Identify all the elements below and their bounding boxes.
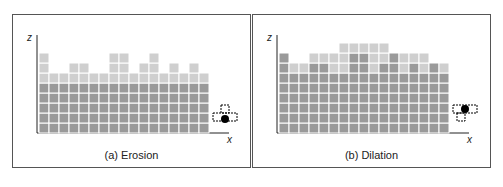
grid-cell xyxy=(49,83,59,93)
grid-cell xyxy=(349,63,359,73)
grid-cell xyxy=(329,123,339,133)
grid-cell xyxy=(339,123,349,133)
grid-cell xyxy=(149,113,159,123)
grid-cell xyxy=(109,63,119,73)
grid-cell xyxy=(149,53,159,63)
grid-cell xyxy=(439,63,449,73)
grid-cell xyxy=(349,93,359,103)
grid-cell xyxy=(379,83,389,93)
erosion-caption: (a) Erosion xyxy=(13,149,250,161)
grid-cell xyxy=(299,73,309,83)
grid-cell xyxy=(139,83,149,93)
grid-cell xyxy=(179,103,189,113)
grid-cell xyxy=(359,73,369,83)
grid-cell xyxy=(199,103,209,113)
grid-cell xyxy=(89,73,99,83)
grid-cell xyxy=(289,63,299,73)
grid-cell xyxy=(49,93,59,103)
grid-cell xyxy=(89,83,99,93)
grid-cell xyxy=(129,113,139,123)
grid-cell xyxy=(119,113,129,123)
grid-cell xyxy=(39,123,49,133)
grid-cell xyxy=(109,113,119,123)
grid-cell xyxy=(79,83,89,93)
grid-cell xyxy=(179,93,189,103)
grid-cell xyxy=(379,93,389,103)
grid-cell xyxy=(309,53,319,63)
grid-cell xyxy=(339,83,349,93)
grid-cell xyxy=(59,103,69,113)
grid-cell xyxy=(69,123,79,133)
grid-cell xyxy=(299,63,309,73)
grid-cell xyxy=(169,93,179,103)
grid-cell xyxy=(289,113,299,123)
erosion-panel: zx (a) Erosion xyxy=(12,14,251,168)
grid-cell xyxy=(279,63,289,73)
grid-cell xyxy=(39,93,49,103)
grid-cell xyxy=(109,123,119,133)
grid-cell xyxy=(119,103,129,113)
grid-cell xyxy=(389,123,399,133)
grid-cell xyxy=(329,103,339,113)
grid-cell xyxy=(339,53,349,63)
grid-cell xyxy=(319,53,329,63)
grid-cell xyxy=(419,73,429,83)
grid-cell xyxy=(359,53,369,63)
grid-cell xyxy=(329,73,339,83)
grid-cell xyxy=(369,103,379,113)
grid-cell xyxy=(389,83,399,93)
grid-cell xyxy=(189,83,199,93)
grid-cell xyxy=(349,113,359,123)
x-axis-label: x xyxy=(466,134,473,145)
grid-cell xyxy=(419,63,429,73)
grid-cell xyxy=(349,103,359,113)
grid-cell xyxy=(379,53,389,63)
grid-cell xyxy=(139,113,149,123)
grid-cell xyxy=(129,73,139,83)
grid-cell xyxy=(329,113,339,123)
grid-cell xyxy=(59,123,69,133)
grid-cell xyxy=(419,113,429,123)
grid-cell xyxy=(179,73,189,83)
grid-cell xyxy=(289,123,299,133)
grid-cell xyxy=(369,123,379,133)
grid-cell xyxy=(59,93,69,103)
grid-cell xyxy=(89,113,99,123)
grid-cell xyxy=(159,113,169,123)
grid-cell xyxy=(159,123,169,133)
grid-cell xyxy=(399,83,409,93)
grid-cell xyxy=(69,103,79,113)
grid-cell xyxy=(319,113,329,123)
grid-cell xyxy=(279,103,289,113)
grid-cell xyxy=(169,83,179,93)
grid-cell xyxy=(359,93,369,103)
grid-cell xyxy=(49,103,59,113)
grid-cell xyxy=(359,43,369,53)
grid-cell xyxy=(429,123,439,133)
grid-cell xyxy=(379,43,389,53)
grid-cell xyxy=(149,73,159,83)
grid-cell xyxy=(279,83,289,93)
grid-cell xyxy=(349,73,359,83)
grid-cell xyxy=(349,43,359,53)
grid-cell xyxy=(439,113,449,123)
grid-cell xyxy=(299,123,309,133)
grid-cell xyxy=(159,93,169,103)
grid-cell xyxy=(369,43,379,53)
grid-cell xyxy=(409,93,419,103)
dilation-diagram: zx xyxy=(253,15,492,169)
grid-cell xyxy=(179,83,189,93)
grid-cell xyxy=(419,93,429,103)
kernel-cell xyxy=(457,113,465,121)
grid-cell xyxy=(139,123,149,133)
erosion-diagram: zx xyxy=(13,15,252,169)
grid-cell xyxy=(299,103,309,113)
grid-cell xyxy=(379,113,389,123)
grid-cell xyxy=(79,103,89,113)
grid-cell xyxy=(279,73,289,83)
grid-cell xyxy=(69,93,79,103)
grid-cell xyxy=(199,93,209,103)
grid-cell xyxy=(299,83,309,93)
grid-cell xyxy=(179,123,189,133)
grid-cell xyxy=(319,93,329,103)
